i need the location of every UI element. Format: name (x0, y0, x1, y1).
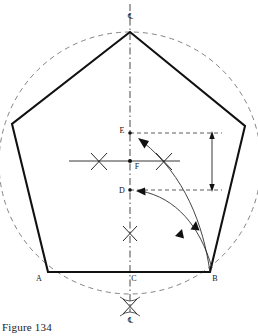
arc-cross-left (91, 153, 107, 170)
figure-caption: Figure 134 (2, 321, 52, 333)
point-label-d: D (119, 186, 125, 195)
construction-arc-to-e (143, 142, 210, 272)
point-dot-d (128, 188, 132, 192)
point-dot-e (128, 131, 132, 135)
arc-cross-right (156, 153, 172, 170)
arc-arrowhead-to-d-icon (136, 188, 146, 196)
pentagon-construction-drawing: A B C D E F ℄ ℄ (0, 0, 258, 336)
construction-arc-to-d (141, 191, 212, 268)
figure-container: A B C D E F ℄ ℄ Figure 134 (0, 0, 258, 336)
point-label-a: A (36, 274, 42, 283)
centerline-symbol-bottom: ℄ (127, 316, 134, 325)
point-label-b: B (212, 274, 217, 283)
point-dot-f (128, 159, 132, 163)
arc-arrowhead-to-e-icon (138, 138, 149, 149)
arc-midpoint-arrowhead-lower-icon (175, 229, 184, 239)
dimension-arrow-down-icon (209, 184, 214, 192)
pentagon-outline (12, 32, 245, 272)
dimension-arrow-up-icon (209, 131, 214, 139)
point-label-f: F (135, 162, 140, 171)
centerline-symbol-top: ℄ (127, 12, 134, 21)
circumscribed-circle (0, 32, 258, 294)
point-label-c: C (131, 274, 136, 283)
point-label-e: E (120, 126, 125, 135)
